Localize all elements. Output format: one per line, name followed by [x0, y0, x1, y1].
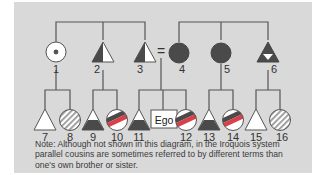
ego-box: Ego [151, 110, 177, 128]
label-2: 2 [94, 63, 100, 75]
person-2 [92, 42, 114, 62]
person-16 [270, 110, 291, 131]
label-6: 6 [271, 63, 277, 75]
person-4 [169, 43, 189, 63]
diagram-note: Note: Although not shown in this diagram… [35, 139, 305, 170]
person-15 [245, 109, 267, 130]
marriage-equals-sign: = [157, 43, 165, 59]
person-8 [60, 110, 81, 131]
person-11 [128, 109, 150, 130]
ego-label: Ego [155, 114, 174, 126]
label-1: 1 [53, 63, 59, 75]
person-6 [257, 42, 279, 62]
person-1 [46, 42, 66, 62]
person-10 [103, 109, 130, 130]
person-13 [198, 109, 220, 130]
label-4: 4 [179, 63, 185, 75]
person-14 [219, 109, 246, 130]
label-5: 5 [224, 63, 230, 75]
connector-lines [45, 22, 280, 110]
person-3 [134, 42, 156, 62]
person-9 [82, 109, 104, 130]
label-3: 3 [137, 63, 143, 75]
person-5 [211, 43, 231, 63]
person-7 [34, 109, 56, 130]
